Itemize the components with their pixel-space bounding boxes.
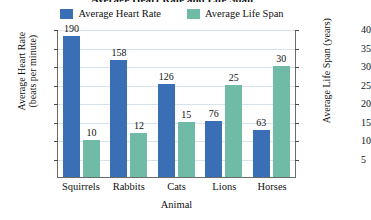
bar-life-span[interactable] [225,85,242,178]
left-axis-title: Average Heart Rate (beats per minute) [16,0,38,145]
axis-tick [295,86,299,87]
x-axis-category-label: Lions [200,181,248,192]
bar-life-span[interactable] [273,66,290,177]
bar-value-life-span: 25 [229,73,239,83]
x-axis-category-labels: SquirrelsRabbitsCatsLionsHorses [57,181,296,192]
bar-group: 19010 [58,30,105,177]
x-axis-title: Animal [57,199,296,210]
right-axis-tick-label: 30 [361,62,371,72]
axis-tick [295,123,299,124]
plot-area: 200175150125100755025 403530252015105 19… [57,30,296,178]
bar-heart-rate[interactable] [205,121,222,177]
bar-life-span[interactable] [130,133,147,177]
legend-swatch-heart-rate [60,9,73,19]
bar-group: 15812 [105,30,152,177]
bar-value-heart-rate: 126 [159,72,174,82]
bar-group: 7625 [200,30,247,177]
legend-item-life-span[interactable]: Average Life Span [187,9,284,20]
axis-tick [295,49,299,50]
legend-label-heart-rate: Average Heart Rate [78,9,161,20]
axis-tick [295,160,299,161]
legend-item-heart-rate[interactable]: Average Heart Rate [60,9,161,20]
bar-heart-rate[interactable] [110,60,127,177]
axis-tick [295,67,299,68]
x-axis-category-label: Horses [248,181,296,192]
right-axis-tick-label: 15 [361,118,371,128]
legend-swatch-life-span [187,9,200,19]
x-axis-category-label: Rabbits [105,181,153,192]
right-axis-tick-label: 10 [361,136,371,146]
x-axis-category-label: Squirrels [57,181,105,192]
right-axis-tick-label: 40 [361,25,371,35]
bar-value-life-span: 12 [134,121,144,131]
bar-life-span[interactable] [178,122,195,178]
right-axis-tick-label: 25 [361,81,371,91]
bar-group: 6330 [248,30,295,177]
right-axis-tick-label: 5 [361,155,366,165]
axis-tick [295,104,299,105]
axis-tick [295,30,299,31]
x-axis-category-label: Cats [153,181,201,192]
legend-label-life-span: Average Life Span [205,9,284,20]
bar-heart-rate[interactable] [253,130,270,177]
bar-value-heart-rate: 63 [256,118,266,128]
bar-group: 12615 [153,30,200,177]
bar-value-life-span: 15 [181,110,191,120]
bar-heart-rate[interactable] [158,84,175,177]
axis-tick [295,141,299,142]
bar-value-life-span: 10 [87,128,97,138]
chart-title: Average Heart Rate and Life Span [0,0,344,2]
right-axis-title: Average Life Span (years) [321,0,332,145]
bar-groups: 19010158121261576256330 [58,30,295,177]
bar-heart-rate[interactable] [63,36,80,177]
left-axis-title-line2: (beats per minute) [27,35,38,108]
left-axis-title-line1: Average Heart Rate [16,32,27,111]
right-axis-tick-label: 20 [361,99,371,109]
right-axis-tick-label: 35 [361,44,371,54]
bar-value-heart-rate: 76 [209,109,219,119]
bar-value-heart-rate: 158 [111,48,126,58]
chart-legend: Average Heart Rate Average Life Span [0,9,344,20]
bar-life-span[interactable] [83,140,100,177]
bar-value-heart-rate: 190 [64,24,79,34]
bar-value-life-span: 30 [276,54,286,64]
